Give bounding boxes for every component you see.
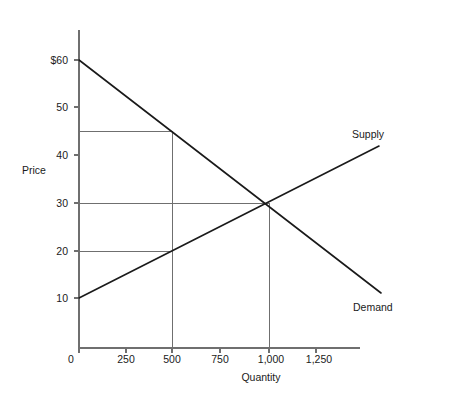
y-tick-label-30: 30	[56, 197, 68, 209]
x-tick-label-500: 500	[163, 353, 181, 365]
x-axis-title: Quantity	[241, 371, 281, 383]
y-tick-label-40: 40	[56, 149, 68, 161]
demand-curve-label: Demand	[353, 301, 393, 313]
y-tick-label-10: 10	[56, 292, 68, 304]
x-tick-label-250: 250	[117, 353, 135, 365]
y-tick-label-20: 20	[56, 245, 68, 257]
supply-demand-chart: $60 50 40 30 20 10 0 250 500 750 1,000 1…	[0, 0, 464, 405]
chart-canvas: $60 50 40 30 20 10 0 250 500 750 1,000 1…	[0, 0, 464, 405]
y-tick-label-50: 50	[56, 101, 68, 113]
x-tick-label-0: 0	[68, 353, 74, 365]
x-tick-label-1000: 1,000	[258, 353, 284, 365]
supply-curve-label: Supply	[352, 128, 385, 140]
x-tick-label-750: 750	[211, 353, 229, 365]
x-tick-label-1250: 1,250	[306, 353, 332, 365]
y-tick-label-60: $60	[50, 54, 68, 66]
y-axis-title: Price	[22, 164, 46, 176]
